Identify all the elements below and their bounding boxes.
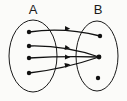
edge-a4-b2 — [29, 57, 99, 73]
set-a-element-dot — [27, 71, 31, 75]
mapping-diagram: A B — [0, 0, 127, 101]
set-a-label: A — [29, 2, 38, 17]
set-b-element-dot — [97, 55, 102, 60]
set-b-label: B — [94, 2, 103, 17]
edge-a1-b1 — [29, 30, 100, 36]
edge-a2-b2-arrowhead-icon — [65, 45, 71, 51]
set-a-element-dot — [27, 56, 31, 60]
set-a-element-dot — [27, 30, 31, 34]
edge-a3-b2-arrowhead-icon — [65, 54, 70, 59]
set-a-element-dot — [27, 44, 31, 48]
edge-a3-b2 — [29, 57, 99, 58]
set-b-element-dot — [98, 34, 102, 38]
set-b-element-dot — [96, 76, 100, 80]
edge-a2-b2 — [29, 46, 99, 57]
mapping-diagram-canvas: A B — [0, 0, 127, 101]
